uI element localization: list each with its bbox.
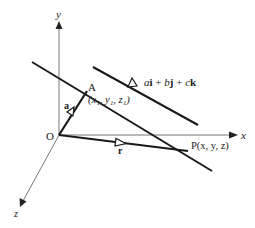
y-axis-label: y (55, 8, 61, 20)
vector-r (59, 135, 188, 151)
z-axis (20, 135, 60, 207)
z-axis-arrow-icon (20, 198, 27, 207)
vector-r-label: r (118, 145, 123, 156)
line-vector-diagram: y x z O A (x₁, y₁, z₁) a r P(x, y, z) ai… (0, 0, 255, 228)
x-axis-arrow-icon (229, 132, 238, 139)
z-axis-label: z (13, 208, 18, 219)
point-A-label: A (88, 81, 96, 93)
vector-a-label: a (64, 100, 69, 111)
point-A-coords: (x₁, y₁, z₁) (88, 94, 130, 106)
point-P-label: P(x, y, z) (191, 140, 229, 152)
x-axis-label: x (240, 129, 246, 141)
origin-label: O (46, 130, 54, 142)
direction-vector-label: ai + bj + ck (144, 76, 197, 88)
direction-arrow-icon (128, 78, 137, 87)
vector-a (59, 91, 87, 135)
y-axis-arrow-icon (56, 21, 63, 29)
